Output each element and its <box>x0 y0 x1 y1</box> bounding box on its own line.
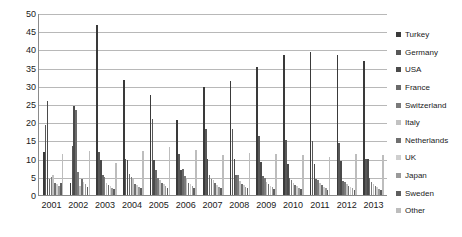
bar-cluster <box>200 14 227 195</box>
x-axis-tick-label: 2005 <box>145 198 172 216</box>
bar-cluster <box>280 14 307 195</box>
bar <box>329 157 331 195</box>
legend-item[interactable]: Sweden <box>396 184 462 202</box>
x-axis-tick-label: 2001 <box>38 198 65 216</box>
y-axis-tick-label: 0 <box>4 192 36 201</box>
y-axis-tick-label: 15 <box>4 137 36 146</box>
x-axis: 2001200220032004200520062007200820092010… <box>38 198 387 216</box>
y-axis-tick-label: 45 <box>4 28 36 37</box>
legend-item-label: USA <box>405 65 421 74</box>
legend-swatch-icon <box>396 138 401 143</box>
bar <box>302 155 304 195</box>
legend-swatch-icon <box>396 67 401 72</box>
bar <box>62 154 64 195</box>
legend-item-label: Sweden <box>405 189 434 198</box>
x-axis-tick-label: 2009 <box>253 198 280 216</box>
y-axis-tick-label: 40 <box>4 46 36 55</box>
legend-swatch-icon <box>396 208 401 213</box>
bar-cluster <box>67 14 94 195</box>
legend-swatch-icon <box>396 50 401 55</box>
legend-swatch-icon <box>396 32 401 37</box>
legend-swatch-icon <box>396 103 401 108</box>
legend-item-label: Germany <box>405 48 438 57</box>
y-axis: 50454035302520151050 <box>0 14 36 196</box>
bar <box>382 155 384 195</box>
legend-item[interactable]: Japan <box>396 167 462 185</box>
bar-chart: 50454035302520151050 2001200220032004200… <box>0 0 462 237</box>
legend-item[interactable]: UK <box>396 149 462 167</box>
bar <box>89 151 91 195</box>
x-axis-tick-label: 2007 <box>199 198 226 216</box>
x-axis-tick-label: 2002 <box>65 198 92 216</box>
bar-cluster <box>93 14 120 195</box>
bar <box>169 147 171 195</box>
y-axis-tick-label: 5 <box>4 174 36 183</box>
bar-cluster <box>334 14 361 195</box>
legend-item[interactable]: Other <box>396 202 462 220</box>
bar <box>195 150 197 196</box>
legend-item-label: Netherlands <box>405 136 448 145</box>
legend-item[interactable]: Turkey <box>396 26 462 44</box>
legend-swatch-icon <box>396 191 401 196</box>
bar <box>355 154 357 195</box>
y-axis-tick-label: 35 <box>4 65 36 74</box>
legend-item-label: UK <box>405 153 416 162</box>
legend-swatch-icon <box>396 120 401 125</box>
legend-item[interactable]: Italy <box>396 114 462 132</box>
legend-item[interactable]: Netherlands <box>396 132 462 150</box>
legend-item-label: Other <box>405 206 425 215</box>
legend-swatch-icon <box>396 173 401 178</box>
y-axis-tick-label: 20 <box>4 119 36 128</box>
x-axis-tick-label: 2013 <box>360 198 387 216</box>
legend-item[interactable]: Switzerland <box>396 96 462 114</box>
plot-area <box>38 14 387 196</box>
bar-cluster <box>254 14 281 195</box>
x-axis-tick-label: 2012 <box>333 198 360 216</box>
legend-swatch-icon <box>396 155 401 160</box>
y-axis-tick-label: 30 <box>4 83 36 92</box>
bar-cluster <box>360 14 387 195</box>
chart-legend: TurkeyGermanyUSAFranceSwitzerlandItalyNe… <box>396 26 462 220</box>
bar-cluster <box>147 14 174 195</box>
bar-cluster <box>120 14 147 195</box>
x-axis-tick-label: 2006 <box>172 198 199 216</box>
y-axis-tick-label: 10 <box>4 156 36 165</box>
bar <box>275 154 277 195</box>
bar-cluster <box>173 14 200 195</box>
bar <box>142 151 144 195</box>
bar <box>222 155 224 195</box>
bar-cluster <box>227 14 254 195</box>
x-axis-tick-label: 2004 <box>119 198 146 216</box>
x-axis-tick-label: 2003 <box>92 198 119 216</box>
y-axis-tick-label: 25 <box>4 101 36 110</box>
legend-item-label: Switzerland <box>405 101 446 110</box>
x-axis-tick-label: 2008 <box>226 198 253 216</box>
legend-item[interactable]: France <box>396 79 462 97</box>
legend-item[interactable]: Germany <box>396 44 462 62</box>
x-axis-tick-label: 2011 <box>306 198 333 216</box>
legend-swatch-icon <box>396 85 401 90</box>
legend-item-label: Japan <box>405 171 427 180</box>
legend-item-label: Italy <box>405 118 420 127</box>
bar <box>249 153 251 195</box>
legend-item-label: France <box>405 83 430 92</box>
y-axis-tick-label: 50 <box>4 10 36 19</box>
x-axis-tick-label: 2010 <box>280 198 307 216</box>
legend-item[interactable]: USA <box>396 61 462 79</box>
legend-item-label: Turkey <box>405 30 429 39</box>
bar-cluster <box>307 14 334 195</box>
bar <box>115 163 117 195</box>
bar-cluster <box>40 14 67 195</box>
bar-clusters <box>40 14 387 195</box>
